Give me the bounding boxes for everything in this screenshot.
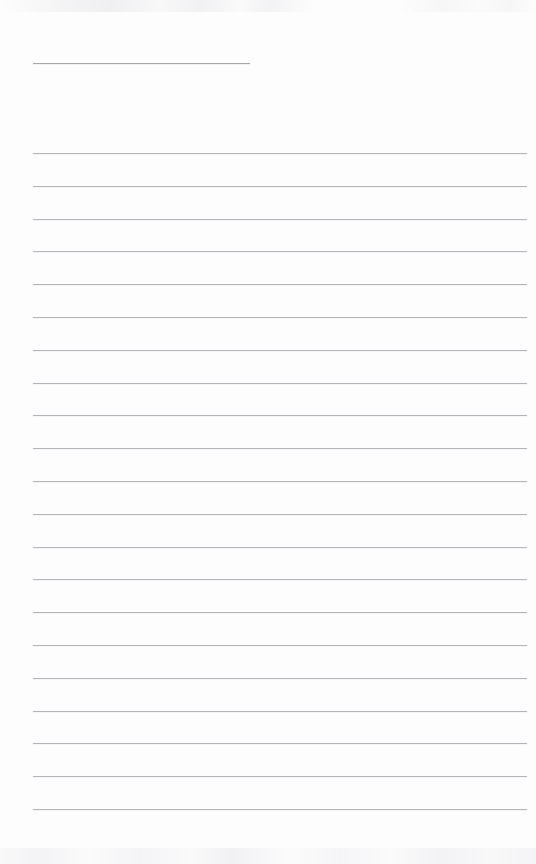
scan-artifact-top-band [0, 0, 536, 12]
ruled-line [33, 317, 527, 318]
ruled-line [33, 678, 527, 679]
ruled-line [33, 809, 527, 810]
ruled-line [33, 776, 527, 777]
ruled-line [33, 579, 527, 580]
ruled-line [33, 645, 527, 646]
ruled-line [33, 547, 527, 548]
ruled-line [33, 251, 527, 252]
ruled-line [33, 186, 527, 187]
ruled-line [33, 514, 527, 515]
ruled-line [33, 284, 527, 285]
ruled-line [33, 350, 527, 351]
ruled-line [33, 219, 527, 220]
ruled-line [33, 612, 527, 613]
header-rule [33, 63, 250, 64]
ruled-line [33, 711, 527, 712]
ruled-line [33, 383, 527, 384]
ruled-line [33, 153, 527, 154]
ruled-line [33, 415, 527, 416]
ruled-line [33, 448, 527, 449]
scanned-page [0, 0, 536, 864]
ruled-line [33, 743, 527, 744]
scan-artifact-bottom-band [0, 848, 536, 864]
ruled-line [33, 481, 527, 482]
